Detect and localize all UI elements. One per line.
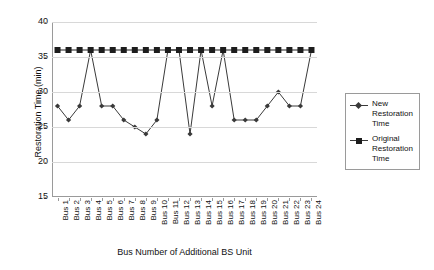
legend-item-original-restoration-time: Original Restoration Time [349,134,415,164]
data-point-marker [132,47,138,53]
x-tick-label: Bus 21 [281,200,290,225]
x-tick-label: Bus 20 [270,200,279,225]
x-tick-mark [124,198,125,201]
x-tick-label: Bus 5 [105,200,114,220]
x-tick-mark [201,198,202,201]
data-point-marker [66,47,72,53]
x-tick-mark [113,198,114,201]
data-point-marker [286,47,292,53]
data-point-marker [176,47,182,53]
x-tick-label: Bus 8 [138,200,147,220]
data-point-marker [297,47,303,53]
x-tick-label: Bus 15 [215,200,224,225]
y-axis-tick-labels: 403530252015 [18,22,48,197]
y-tick-label: 15 [22,191,48,201]
x-tick-label: Bus 3 [83,200,92,220]
x-tick-label: Bus 16 [226,200,235,225]
data-point-marker [264,47,270,53]
diamond-marker-icon [349,100,369,111]
data-point-marker [210,103,215,108]
y-tick-label: 40 [22,16,48,26]
data-point-marker [55,47,61,53]
x-tick-label: Bus 1 [61,200,70,220]
x-tick-mark [212,198,213,201]
x-tick-label: Bus 19 [259,200,268,225]
x-tick-mark [157,198,158,201]
data-point-marker [88,47,94,53]
data-point-marker [298,103,303,108]
y-tick-mark [44,22,48,23]
y-tick-mark [44,127,48,128]
x-axis-tick-labels: Bus 1Bus 2Bus 3Bus 4Bus 5Bus 6Bus 7Bus 8… [52,198,317,246]
data-point-marker [220,47,226,53]
x-tick-label: Bus 17 [237,200,246,225]
data-point-marker [198,47,204,53]
x-tick-label: Bus 4 [94,200,103,220]
x-tick-mark [234,198,235,201]
data-point-marker [110,47,116,53]
x-tick-mark [91,198,92,201]
square-marker-icon [349,135,369,146]
y-tick-label: 20 [22,156,48,166]
data-point-marker [187,47,193,53]
gridline [52,162,317,163]
x-tick-mark [146,198,147,201]
gridline [52,22,317,23]
gridline [52,92,317,93]
data-point-marker [187,131,192,136]
x-tick-mark [289,198,290,201]
y-tick-mark [44,92,48,93]
data-point-marker [143,47,149,53]
x-tick-label: Bus 9 [149,200,158,220]
chart-legend: New Restoration Time Original Restoratio… [345,93,420,170]
chart-figure: Restoration Time (min) 403530252015 Bus … [0,0,434,270]
legend-item-new-restoration-time: New Restoration Time [349,99,415,129]
data-point-marker [209,47,215,53]
data-point-marker [99,47,105,53]
y-axis-line [52,22,53,197]
x-tick-mark [179,198,180,201]
x-tick-mark [300,198,301,201]
x-tick-label: Bus 24 [314,200,323,225]
series-lines [52,22,317,197]
x-tick-mark [278,198,279,201]
x-tick-label: Bus 14 [204,200,213,225]
x-tick-mark [69,198,70,201]
x-tick-mark [190,198,191,201]
x-tick-mark [135,198,136,201]
data-point-marker [253,47,259,53]
data-point-marker [243,117,248,122]
x-tick-label: Bus 22 [292,200,301,225]
x-tick-label: Bus 7 [127,200,136,220]
y-tick-mark [44,197,48,198]
x-tick-mark [102,198,103,201]
x-tick-label: Bus 13 [193,200,202,225]
x-tick-mark [58,198,59,201]
legend-label: New Restoration Time [372,99,415,129]
x-tick-mark [168,198,169,201]
x-tick-label: Bus 10 [160,200,169,225]
x-tick-mark [256,198,257,201]
x-tick-mark [80,198,81,201]
x-tick-label: Bus 23 [303,200,312,225]
data-point-marker [121,47,127,53]
data-point-marker [165,47,171,53]
data-point-marker [154,47,160,53]
x-tick-label: Bus 18 [248,200,257,225]
plot-area [52,22,317,197]
x-tick-label: Bus 11 [171,200,180,224]
gridline [52,127,317,128]
data-point-marker [99,103,104,108]
y-tick-mark [44,57,48,58]
data-point-marker [232,117,237,122]
data-point-marker [242,47,248,53]
x-tick-mark [267,198,268,201]
x-tick-mark [223,198,224,201]
x-tick-mark [245,198,246,201]
y-tick-label: 30 [22,86,48,96]
x-tick-label: Bus 12 [182,200,191,225]
y-tick-mark [44,162,48,163]
data-point-marker [231,47,237,53]
x-tick-label: Bus 2 [72,200,81,220]
data-point-marker [77,47,83,53]
